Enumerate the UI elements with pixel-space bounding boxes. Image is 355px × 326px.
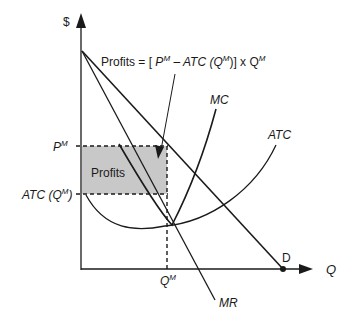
x-axis-label: Q	[326, 262, 336, 277]
mc-label: MC	[210, 93, 229, 107]
atc-label: ATC	[267, 128, 291, 142]
demand-intercept-point	[280, 266, 286, 272]
y-axis-arrow-icon	[76, 13, 86, 28]
diagram-canvas: $ Q Profits = [ PM – ATC (QM)] x QM MC A…	[0, 0, 355, 326]
quantity-level-label: QM	[160, 273, 176, 288]
profit-region-label: Profits	[91, 166, 125, 180]
demand-label: D	[282, 251, 291, 265]
y-axis-label: $	[63, 15, 70, 29]
monopoly-diagram: $ Q Profits = [ PM – ATC (QM)] x QM MC A…	[0, 0, 355, 326]
mr-label: MR	[219, 296, 238, 310]
profit-formula: Profits = [ PM – ATC (QM)] x QM	[101, 54, 266, 69]
formula-pointer	[161, 74, 175, 150]
atc-level-label: ATC (QM)	[21, 187, 72, 202]
x-axis-arrow-icon	[299, 264, 313, 274]
price-level-label: PM	[53, 139, 68, 154]
